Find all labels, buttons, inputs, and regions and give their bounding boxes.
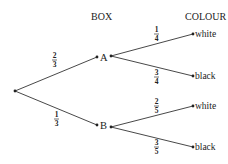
header-colour: COLOUR (185, 11, 226, 22)
edge-B-white (111, 106, 193, 127)
node-B-dot-in (96, 124, 99, 127)
header-box: BOX (91, 11, 113, 22)
leaf-dot (192, 33, 195, 36)
node-A-dot-out (110, 55, 113, 58)
svg-text:2: 2 (155, 97, 159, 106)
prob-A-black: 3 4 (154, 68, 159, 86)
svg-text:2: 2 (53, 51, 57, 60)
svg-text:5: 5 (155, 106, 159, 115)
leaf-label-A-black: black (195, 71, 216, 81)
leaf-label-B-black: black (195, 142, 216, 152)
root-node-dot (14, 90, 17, 93)
node-A-dot-in (96, 56, 99, 59)
edge-A-black (111, 56, 193, 76)
leaf-label-B-white: white (195, 101, 216, 111)
probability-tree-diagram: BOX COLOUR A B white black white black 2… (0, 0, 228, 164)
prob-B-black: 3 5 (154, 138, 159, 156)
node-label-B: B (100, 120, 107, 131)
node-label-A: A (100, 52, 108, 63)
svg-text:3: 3 (155, 68, 159, 77)
svg-text:4: 4 (155, 34, 159, 43)
svg-text:1: 1 (155, 25, 159, 34)
edge-A-white (111, 34, 193, 56)
prob-root-A: 2 3 (52, 51, 57, 69)
edge-B-black (111, 127, 193, 147)
prob-A-white: 1 4 (154, 25, 159, 43)
leaf-dot (192, 146, 195, 149)
svg-text:3: 3 (155, 138, 159, 147)
svg-text:3: 3 (55, 119, 59, 128)
leaf-label-A-white: white (195, 29, 216, 39)
node-B-dot-out (110, 126, 113, 129)
svg-text:1: 1 (55, 110, 59, 119)
leaf-dot (192, 75, 195, 78)
prob-root-B: 1 3 (54, 110, 59, 128)
leaf-dot (192, 105, 195, 108)
svg-text:5: 5 (155, 147, 159, 156)
svg-text:4: 4 (155, 77, 159, 86)
svg-text:3: 3 (53, 60, 57, 69)
prob-B-white: 2 5 (154, 97, 159, 115)
